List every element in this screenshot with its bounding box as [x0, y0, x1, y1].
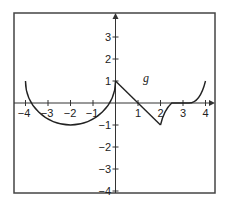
y-tick-label: 1 — [105, 75, 111, 87]
x-tick-label: −4 — [18, 107, 31, 119]
y-tick-label: −1 — [98, 119, 111, 131]
y-tick-label: 2 — [105, 53, 111, 65]
y-tick-label: 3 — [105, 31, 111, 43]
x-tick-labels: −4 −3 −2 −1 1 2 3 4 — [18, 107, 209, 119]
y-tick-label: −3 — [98, 163, 111, 175]
y-axis-arrow-icon — [113, 13, 119, 19]
x-tick-label: 4 — [202, 107, 208, 119]
x-tick-label: −3 — [41, 107, 54, 119]
x-tick-label: −2 — [64, 107, 77, 119]
y-tick-label: −2 — [98, 141, 111, 153]
x-tick-label: 3 — [180, 107, 186, 119]
x-axis-arrow-icon — [209, 100, 215, 106]
x-tick-label: 1 — [135, 107, 141, 119]
function-label: g — [143, 71, 149, 85]
graph-of-g: −4 −3 −2 −1 1 2 3 4 3 2 1 −1 −2 −3 −4 g — [0, 0, 226, 206]
y-tick-label: −4 — [98, 185, 111, 197]
